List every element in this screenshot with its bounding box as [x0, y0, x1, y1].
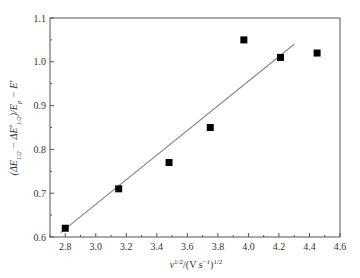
fit-line	[61, 44, 295, 232]
data-point-square	[62, 225, 69, 232]
x-tick-label: 3.4	[151, 241, 164, 252]
data-point-square	[314, 50, 321, 57]
y-axis-ticks: 0.60.70.80.91.01.1	[34, 13, 55, 243]
y-tick-label: 0.7	[34, 188, 47, 199]
x-tick-label: 3.6	[181, 241, 194, 252]
scatter-chart: 0.60.70.80.91.01.1 2.83.03.23.43.63.84.0…	[0, 0, 360, 278]
data-points	[62, 36, 321, 231]
data-point-square	[277, 54, 284, 61]
plot-frame	[50, 18, 340, 237]
x-axis-ticks: 2.83.03.23.43.63.84.04.24.44.6	[50, 233, 346, 252]
y-tick-label: 1.0	[34, 56, 47, 67]
x-tick-label: 4.0	[242, 241, 255, 252]
x-tick-label: 4.2	[273, 241, 286, 252]
y-tick-label: 1.1	[34, 13, 47, 24]
y-tick-label: 0.8	[34, 144, 47, 155]
x-tick-label: 4.6	[334, 241, 347, 252]
x-tick-label: 2.8	[59, 241, 72, 252]
data-point-square	[115, 185, 122, 192]
data-point-square	[207, 124, 214, 131]
y-axis-label: (ΔE1/2 − ΔE′1/2)/Ep − E′	[8, 80, 23, 176]
x-axis-label: ν1/2/(V s−1)1/2	[170, 258, 223, 271]
x-tick-label: 4.4	[303, 241, 316, 252]
data-point-square	[240, 36, 247, 43]
y-tick-label: 0.6	[34, 232, 47, 243]
data-point-square	[166, 159, 173, 166]
x-tick-label: 3.2	[120, 241, 133, 252]
y-tick-label: 0.9	[34, 100, 47, 111]
x-tick-label: 3.8	[212, 241, 225, 252]
x-tick-label: 3.0	[90, 241, 103, 252]
